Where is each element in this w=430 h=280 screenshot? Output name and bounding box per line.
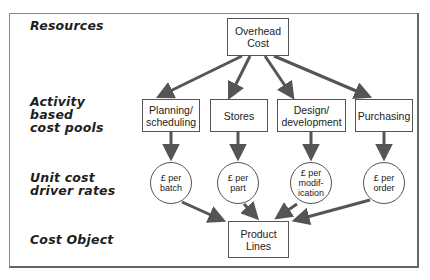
pool-purchasing-box: Purchasing <box>355 99 413 132</box>
rate-per-modification-circle: £ per modif- ication <box>290 162 332 204</box>
arrow-modification-product <box>278 204 297 217</box>
arrow-batch-product <box>182 202 222 220</box>
product-lines-box: Product Lines <box>228 221 289 258</box>
pool-stores-box: Stores <box>210 99 268 132</box>
pool-design-box: Design/ development <box>277 99 346 132</box>
arrow-part-product <box>244 204 256 217</box>
rate-per-part-circle: £ per part <box>217 162 259 204</box>
row-label-driver-rates: Unit cost driver rates <box>30 171 115 197</box>
arrow-overhead-planning <box>160 56 242 96</box>
row-label-activity-pools: Activity based cost pools <box>30 95 104 134</box>
overhead-cost-box: Overhead Cost <box>227 18 289 56</box>
rate-per-batch-circle: £ per batch <box>150 162 192 204</box>
pool-planning-box: Planning/ scheduling <box>142 99 200 132</box>
row-label-resources: Resources <box>30 19 104 32</box>
rate-per-order-circle: £ per order <box>363 162 405 204</box>
row-label-cost-object: Cost Object <box>30 233 113 246</box>
